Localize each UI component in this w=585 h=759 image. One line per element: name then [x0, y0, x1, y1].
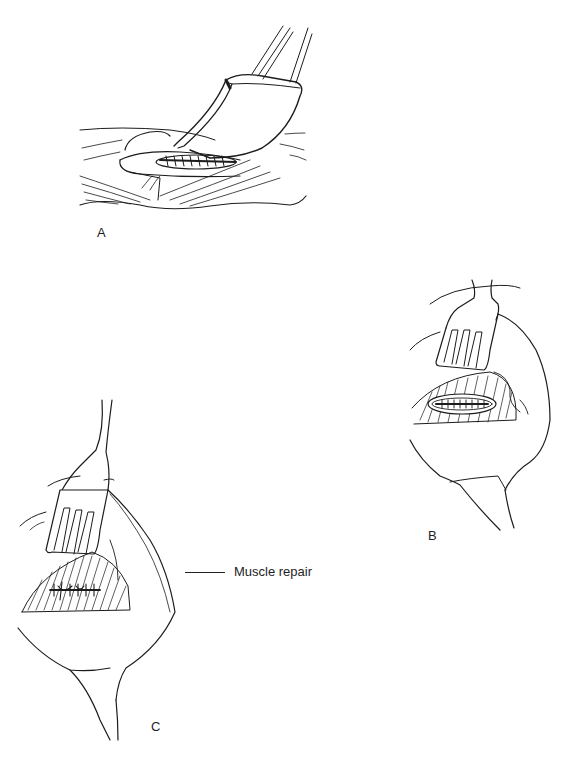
callout-leader-line	[185, 572, 225, 573]
panel-b-illustration	[380, 280, 585, 550]
panel-b: B	[380, 280, 585, 550]
panel-label-c: C	[151, 720, 160, 733]
panel-a: A	[0, 0, 330, 260]
panel-c: C	[0, 400, 330, 759]
panel-a-illustration	[0, 0, 330, 220]
panel-label-b: B	[428, 529, 437, 542]
callout-muscle-repair: Muscle repair	[234, 565, 312, 579]
panel-label-a: A	[97, 226, 106, 239]
